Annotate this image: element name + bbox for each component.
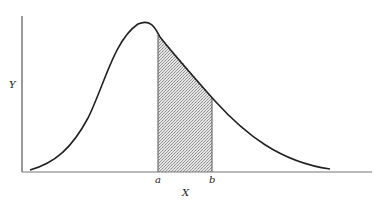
tick-label-a: a (155, 174, 161, 185)
tick-label-b: b (209, 174, 215, 185)
probability-density-chart: Y a b X (0, 0, 383, 205)
y-axis-label: Y (9, 79, 17, 90)
x-axis-label: X (181, 187, 190, 198)
shaded-area-a-to-b (158, 35, 212, 172)
